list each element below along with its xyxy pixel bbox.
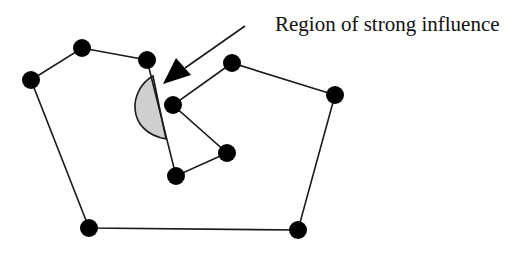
vertex-dot-3 <box>138 51 156 69</box>
vertex-dot-2 <box>73 39 91 57</box>
vertex-dot-9 <box>289 221 307 239</box>
vertex-dot-4 <box>167 167 185 185</box>
vertex-dot-7 <box>223 54 241 72</box>
arrow-head-icon <box>163 58 191 84</box>
vertex-dot-5 <box>218 144 236 162</box>
vertex-dot-6 <box>164 96 182 114</box>
vertex-dot-10 <box>80 219 98 237</box>
region-of-strong-influence <box>135 76 166 139</box>
diagram-canvas <box>0 0 530 256</box>
vertex-dot-1 <box>22 71 40 89</box>
polygon-diagram: Region of strong influence <box>0 0 530 256</box>
annotation-label: Region of strong influence <box>275 12 500 37</box>
vertex-dot-8 <box>326 86 344 104</box>
